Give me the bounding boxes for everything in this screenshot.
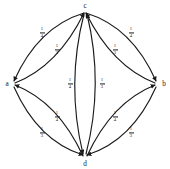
- edge-label-c-a: 1 4: [35, 27, 49, 38]
- node-label-c: c: [83, 2, 86, 10]
- edge-label-c-b: 1 4: [124, 27, 138, 38]
- fraction-numerator: 1: [50, 111, 64, 116]
- fraction-numerator: 1: [35, 27, 49, 32]
- fraction-denominator: 4: [63, 85, 77, 90]
- fraction-denominator: 3: [50, 51, 64, 56]
- fraction-denominator: 4: [50, 118, 64, 123]
- edge-label-b-c: 1 3: [108, 44, 122, 55]
- diagram-canvas: c a b d 1 4 1 3 1 4 1 3 1 4 1 3 1 3: [0, 0, 170, 169]
- edge-label-c-d: 1 4: [63, 78, 77, 89]
- edge-c-to-a: [14, 13, 84, 81]
- edge-label-d-a: 1 4: [50, 111, 64, 122]
- fraction-denominator: 3: [124, 134, 138, 139]
- fraction-numerator: 1: [35, 127, 49, 132]
- edge-label-d-b: 1 4: [108, 111, 122, 122]
- fraction-numerator: 1: [124, 27, 138, 32]
- node-label-d: d: [83, 160, 87, 168]
- fraction-denominator: 4: [124, 34, 138, 39]
- edge-label-a-c: 1 3: [50, 44, 64, 55]
- edge-d-to-a: [15, 85, 83, 156]
- edge-a-to-d: [14, 87, 83, 155]
- node-label-b: b: [162, 80, 166, 88]
- fraction-numerator: 1: [50, 44, 64, 49]
- fraction-denominator: 4: [35, 34, 49, 39]
- edge-label-a-d: 1 3: [35, 127, 49, 138]
- fraction-numerator: 1: [108, 44, 122, 49]
- fraction-denominator: 4: [108, 118, 122, 123]
- fraction-denominator: 3: [35, 134, 49, 139]
- node-label-a: a: [5, 80, 9, 88]
- edge-d-to-c: [86, 14, 95, 154]
- fraction-numerator: 1: [108, 111, 122, 116]
- fraction-denominator: 3: [95, 85, 109, 90]
- graph-svg: c a b d: [0, 0, 170, 169]
- fraction-denominator: 3: [108, 51, 122, 56]
- fraction-numerator: 1: [63, 78, 77, 83]
- edge-label-d-c: 1 3: [95, 78, 109, 89]
- edge-label-b-d: 1 3: [124, 127, 138, 138]
- fraction-numerator: 1: [95, 78, 109, 83]
- fraction-numerator: 1: [124, 127, 138, 132]
